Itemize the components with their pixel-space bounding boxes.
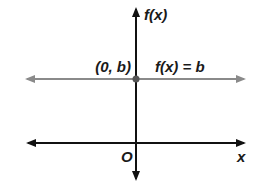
y-intercept-point bbox=[133, 76, 140, 83]
function-label: f(x) = b bbox=[155, 58, 205, 75]
origin-label: O bbox=[121, 148, 133, 165]
x-axis-label: x bbox=[236, 148, 246, 165]
point-label: (0, b) bbox=[95, 58, 131, 75]
y-axis-label: f(x) bbox=[144, 6, 167, 23]
constant-function-graph: f(x) (0, b) f(x) = b O x bbox=[0, 0, 258, 185]
